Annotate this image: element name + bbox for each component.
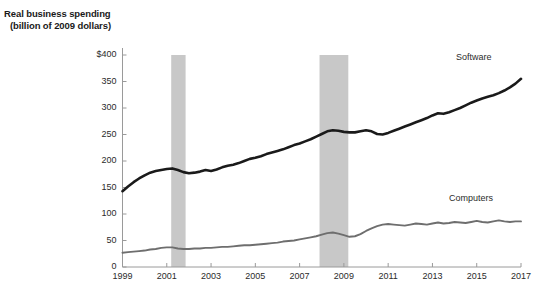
y-tick-label: 0 — [77, 261, 117, 271]
x-tick-label: 2015 — [457, 271, 497, 281]
x-tick-label: 2001 — [147, 271, 187, 281]
y-tick-label: 50 — [77, 235, 117, 245]
series-label-computers: Computers — [449, 193, 493, 203]
y-tick-label: 200 — [77, 155, 117, 165]
y-tick-label: $400 — [77, 49, 117, 59]
x-tick-label: 2003 — [191, 271, 231, 281]
y-tick-label: 300 — [77, 102, 117, 112]
x-tick-label: 2005 — [235, 271, 275, 281]
series-label-software: Software — [456, 52, 492, 62]
y-tick-label: 250 — [77, 129, 117, 139]
x-tick-label: 2009 — [324, 271, 364, 281]
x-tick-label: 2017 — [501, 271, 536, 281]
y-tick-label: 150 — [77, 182, 117, 192]
x-tick-label: 2011 — [368, 271, 408, 281]
y-tick-label: 350 — [77, 76, 117, 86]
y-tick-label: 100 — [77, 208, 117, 218]
x-tick-label: 1999 — [103, 271, 143, 281]
x-tick-label: 2013 — [412, 271, 452, 281]
x-tick-label: 2007 — [280, 271, 320, 281]
recession-2001 — [171, 55, 185, 267]
